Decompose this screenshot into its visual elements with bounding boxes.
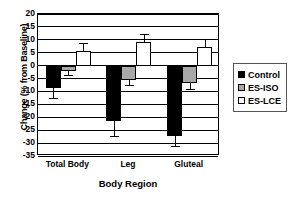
- y-tick-label: 10: [5, 35, 35, 43]
- bar-group: [159, 14, 220, 156]
- error-bar-stem: [53, 88, 54, 98]
- error-bar-stem: [175, 136, 176, 147]
- y-tick-label: -35: [5, 151, 35, 159]
- x-axis-title: Body Region: [36, 178, 220, 189]
- y-tick-label: -15: [5, 99, 35, 107]
- legend-label: ES-LCE: [248, 96, 281, 106]
- y-tick-label: -25: [5, 125, 35, 133]
- error-bar-cap: [64, 75, 73, 76]
- error-bar-cap: [49, 98, 58, 99]
- bar-es-lce: [76, 51, 91, 65]
- y-tick-label: -20: [5, 112, 35, 120]
- error-bar-cap: [140, 34, 149, 35]
- legend-label: ES-ISO: [248, 83, 279, 93]
- legend-swatch-icon: [238, 84, 245, 91]
- x-tick-label: Gluteal: [158, 159, 219, 169]
- x-tick-label: Leg: [98, 159, 159, 169]
- error-bar-cap: [79, 43, 88, 44]
- error-bar-stem: [205, 40, 206, 48]
- bar-es-lce: [197, 47, 212, 65]
- bar-group: [99, 14, 160, 156]
- x-axis-tick-labels: Total BodyLegGluteal: [37, 159, 219, 173]
- bar-es-iso: [182, 66, 197, 84]
- y-tick-label: -10: [5, 86, 35, 94]
- bar-control: [167, 66, 182, 136]
- y-tick-label: 15: [5, 22, 35, 30]
- error-bar-stem: [114, 121, 115, 136]
- error-bar-stem: [144, 34, 145, 42]
- error-bar-cap: [171, 146, 180, 147]
- y-tick-label: -30: [5, 138, 35, 146]
- bar-es-iso: [121, 66, 136, 80]
- chart-figure: Change (% from Baseline) 20151050-5-10-1…: [0, 0, 302, 200]
- y-tick-label: 0: [5, 61, 35, 69]
- legend-label: Control: [248, 70, 280, 80]
- legend-swatch-icon: [238, 71, 245, 78]
- bar-control: [46, 66, 61, 89]
- error-bar-cap: [186, 89, 195, 90]
- y-tick-label: 5: [5, 48, 35, 56]
- error-bar-cap: [201, 39, 210, 40]
- x-tick-label: Total Body: [37, 159, 98, 169]
- legend-item: ES-ISO: [238, 81, 281, 94]
- bar-group: [38, 14, 99, 156]
- legend-item: Control: [238, 68, 281, 81]
- y-tick-label: -5: [5, 74, 35, 82]
- bar-control: [106, 66, 121, 122]
- legend-swatch-icon: [238, 97, 245, 104]
- error-bar-stem: [83, 43, 84, 51]
- error-bar-cap: [110, 136, 119, 137]
- legend-item: ES-LCE: [238, 94, 281, 107]
- chart-legend: ControlES-ISOES-LCE: [233, 63, 287, 112]
- y-tick-label: 20: [5, 9, 35, 17]
- error-bar-cap: [125, 85, 134, 86]
- plot-area: [37, 13, 219, 155]
- y-axis-tick-labels: 20151050-5-10-15-20-25-30-35: [2, 13, 35, 155]
- bar-es-lce: [136, 42, 151, 66]
